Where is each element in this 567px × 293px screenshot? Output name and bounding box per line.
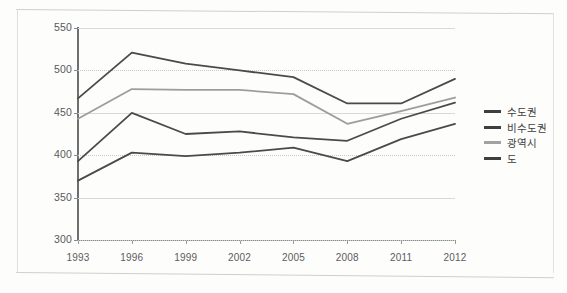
legend-label: 비수도권 bbox=[507, 120, 547, 135]
page-edge-left bbox=[17, 9, 18, 273]
plot-area bbox=[78, 28, 455, 240]
series-line bbox=[78, 124, 455, 181]
legend-label: 도 bbox=[507, 151, 517, 166]
legend-item[interactable]: 광역시 bbox=[484, 135, 562, 151]
y-tick-label: 500 bbox=[26, 63, 72, 75]
legend-label: 수도권 bbox=[507, 104, 537, 119]
page-edge-bottom bbox=[16, 272, 554, 278]
legend-swatch-icon bbox=[484, 157, 501, 160]
x-tick-label: 2005 bbox=[269, 252, 317, 263]
page-edge-top bbox=[16, 9, 554, 14]
legend-item[interactable]: 수도권 bbox=[484, 104, 562, 120]
chart-legend: 수도권비수도권광역시도 bbox=[484, 104, 562, 166]
legend-swatch-icon bbox=[484, 110, 501, 113]
chart-screenshot: 300350400450500550 199319961999200220052… bbox=[0, 0, 567, 293]
series-lines bbox=[78, 28, 455, 240]
x-tick-label: 2002 bbox=[216, 252, 264, 263]
series-line bbox=[78, 89, 455, 124]
x-tick-label: 1999 bbox=[162, 252, 210, 263]
x-tick-label: 1996 bbox=[108, 252, 156, 263]
y-tick-label: 550 bbox=[26, 21, 72, 33]
y-tick-label: 400 bbox=[26, 148, 72, 160]
legend-swatch-icon bbox=[484, 126, 501, 129]
x-tick-label: 1993 bbox=[54, 252, 102, 263]
y-tick-label: 350 bbox=[26, 191, 72, 203]
x-tick bbox=[455, 240, 456, 244]
legend-item[interactable]: 도 bbox=[484, 151, 562, 167]
legend-label: 광역시 bbox=[507, 135, 537, 150]
legend-swatch-icon bbox=[484, 141, 501, 144]
legend-item[interactable]: 비수도권 bbox=[484, 120, 562, 136]
x-tick-label: 2012 bbox=[431, 252, 479, 263]
x-tick-label: 2011 bbox=[377, 252, 425, 263]
y-tick-label: 450 bbox=[26, 106, 72, 118]
x-tick-label: 2008 bbox=[323, 252, 371, 263]
y-tick-label: 300 bbox=[26, 233, 72, 245]
series-line bbox=[78, 53, 455, 104]
gridline-300 bbox=[78, 240, 455, 241]
